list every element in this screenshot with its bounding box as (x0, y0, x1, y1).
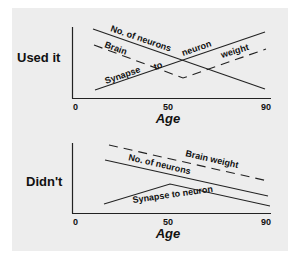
series-synapse-line (95, 32, 265, 90)
x-tick-0: 0 (73, 102, 78, 112)
x-tick-90: 90 (261, 102, 271, 112)
label-brain-weight: Brain weight (185, 148, 240, 170)
row-label-used-it: Used it (17, 50, 61, 65)
chart-didnt: Didn't 0 50 90 Age Brain weight No. of n… (26, 143, 271, 241)
label-synapse: Synapse (103, 64, 141, 86)
chart-used-it: Used it 0 50 90 Age No. of neurons Brain… (17, 23, 271, 126)
x-axis-label: Age (155, 111, 181, 126)
row-label-didnt: Didn't (26, 174, 63, 189)
label-neurons: No. of neurons (128, 152, 192, 176)
x-axis-label: Age (155, 226, 181, 241)
label-synapse: Synapse to neuron (132, 184, 214, 205)
label-brain: Brain (103, 39, 128, 56)
x-tick-0: 0 (73, 217, 78, 227)
x-tick-90: 90 (261, 217, 271, 227)
label-weight: weight (219, 42, 250, 60)
label-to: to (152, 60, 164, 72)
chart-figure: Used it 0 50 90 Age No. of neurons Brain… (0, 0, 293, 260)
